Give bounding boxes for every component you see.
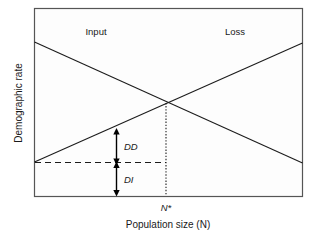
demographic-rate-figure: Input Loss DD DI N* Population size (N) … (0, 0, 317, 241)
loss-series-label: Loss (225, 26, 245, 37)
chart-canvas: Input Loss DD DI N* Population size (N) … (0, 0, 317, 241)
dd-label: DD (124, 141, 138, 152)
di-label: DI (124, 174, 134, 185)
x-tick-label-equilibrium: N* (161, 202, 172, 213)
input-series-label: Input (85, 26, 106, 37)
y-axis-title: Demographic rate (13, 63, 24, 143)
x-axis-title: Population size (N) (126, 219, 210, 230)
